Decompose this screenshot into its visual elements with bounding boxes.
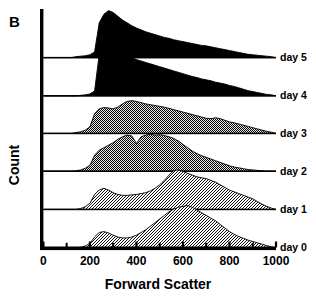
x-tick-major [228, 242, 230, 248]
y-axis-spine [40, 9, 43, 250]
forward-scatter-ridgeline-chart: B Count 02004006008001000 Forward Scatte… [0, 0, 316, 297]
x-tick-minor [66, 243, 68, 247]
x-tick-major [135, 242, 137, 248]
trace-label-day-1: day 1 [280, 203, 307, 215]
x-tick-minor [112, 243, 114, 247]
panel-label: B [9, 13, 20, 30]
x-axis-spine [40, 247, 276, 251]
trace-baseline [43, 95, 276, 97]
trace-label-day-0: day 0 [280, 241, 307, 253]
x-tick-minor [205, 243, 207, 247]
x-tick-major [275, 242, 277, 248]
x-tick-label: 800 [219, 254, 239, 268]
trace-label-day-4: day 4 [280, 89, 307, 101]
x-tick-label: 0 [40, 254, 47, 268]
y-axis-title: Count [6, 144, 22, 185]
x-tick-major [182, 242, 184, 248]
trace-baseline [43, 133, 276, 135]
x-tick-label: 400 [126, 254, 146, 268]
trace-label-day-5: day 5 [280, 51, 307, 63]
x-tick-major [89, 242, 91, 248]
trace-baseline [43, 57, 276, 59]
x-axis-title: Forward Scatter [105, 276, 212, 292]
x-tick-label: 1000 [263, 254, 290, 268]
x-tick-major [42, 242, 44, 248]
x-tick-minor [252, 243, 254, 247]
trace-label-day-3: day 3 [280, 127, 307, 139]
trace-label-day-2: day 2 [280, 165, 307, 177]
x-tick-label: 600 [173, 254, 193, 268]
x-tick-label: 200 [80, 254, 100, 268]
x-tick-minor [159, 243, 161, 247]
trace-baseline [43, 171, 276, 173]
trace-baseline [43, 209, 276, 211]
figure-panel-b: B Count 02004006008001000 Forward Scatte… [0, 0, 316, 297]
